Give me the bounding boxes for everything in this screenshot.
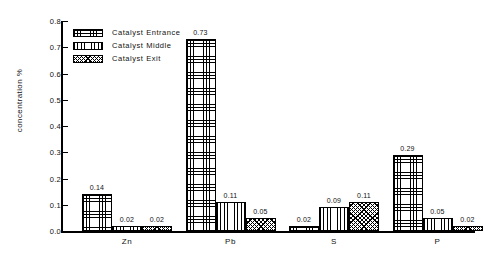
y-tick-label: 0.4 bbox=[35, 123, 61, 131]
legend: Catalyst EntranceCatalyst MiddleCatalyst… bbox=[73, 26, 181, 65]
bar-value-label: 0.14 bbox=[76, 184, 118, 191]
legend-item: Catalyst Entrance bbox=[73, 26, 181, 39]
y-tick-label: 0.0 bbox=[35, 228, 61, 236]
bar bbox=[186, 39, 216, 231]
legend-label: Catalyst Middle bbox=[112, 42, 172, 50]
x-axis-line bbox=[61, 231, 475, 233]
x-axis-category-label: S bbox=[289, 238, 379, 246]
bar bbox=[246, 218, 276, 231]
bar bbox=[112, 226, 142, 231]
bar bbox=[453, 226, 483, 231]
legend-item: Catalyst Middle bbox=[73, 39, 181, 52]
y-tick-label: 0.3 bbox=[35, 149, 61, 157]
bar-value-label: 0.11 bbox=[343, 192, 385, 199]
bar-value-label: 0.73 bbox=[180, 29, 222, 36]
y-tick-label: 0.1 bbox=[35, 202, 61, 210]
y-tick-label: 0.7 bbox=[35, 44, 61, 52]
y-tick-label: 0.5 bbox=[35, 97, 61, 105]
legend-swatch-vertical-lines-icon bbox=[73, 42, 103, 50]
bar-value-label: 0.05 bbox=[240, 208, 282, 215]
x-axis-category-label: Zn bbox=[82, 238, 172, 246]
bar bbox=[393, 155, 423, 231]
legend-label: Catalyst Entrance bbox=[112, 29, 181, 37]
bar-value-label: 0.02 bbox=[136, 216, 178, 223]
y-tick-label: 0.6 bbox=[35, 71, 61, 79]
y-tick-label: 0.8 bbox=[35, 18, 61, 26]
bar bbox=[216, 202, 246, 231]
y-tick-label: 0.2 bbox=[35, 176, 61, 184]
bar-value-label: 0.05 bbox=[417, 208, 459, 215]
bar-value-label: 0.02 bbox=[447, 216, 489, 223]
legend-swatch-grid-icon bbox=[73, 29, 103, 37]
x-axis-category-label: Pb bbox=[186, 238, 276, 246]
legend-label: Catalyst Exit bbox=[112, 55, 161, 63]
bar-chart: concentration % 0.00.10.20.30.40.50.60.7… bbox=[0, 0, 494, 269]
bar bbox=[349, 202, 379, 231]
bar bbox=[319, 207, 349, 231]
legend-item: Catalyst Exit bbox=[73, 52, 181, 65]
y-tick-mark bbox=[63, 231, 68, 232]
bar-value-label: 0.29 bbox=[387, 145, 429, 152]
bar bbox=[142, 226, 172, 231]
bar bbox=[289, 226, 319, 231]
bar bbox=[82, 194, 112, 231]
bar-value-label: 0.11 bbox=[210, 192, 252, 199]
x-axis-category-label: P bbox=[393, 238, 483, 246]
y-axis-title: concentration % bbox=[15, 56, 24, 146]
legend-swatch-dots-icon bbox=[73, 55, 103, 63]
